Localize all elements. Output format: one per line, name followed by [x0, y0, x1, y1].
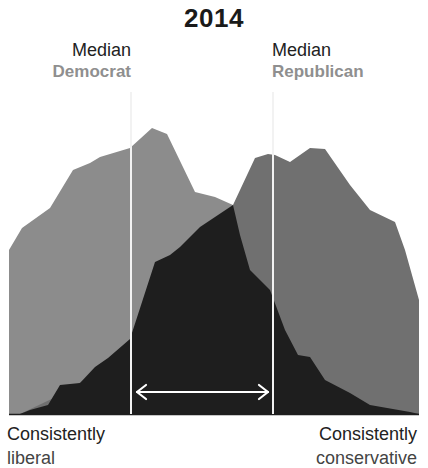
- x-axis-right-label: Consistently conservative: [316, 422, 417, 468]
- right-label-line2: conservative: [316, 446, 417, 468]
- left-label-line1: Consistently: [7, 424, 105, 444]
- left-label-line2: liberal: [7, 446, 105, 468]
- right-label-line1: Consistently: [319, 424, 417, 444]
- x-axis-left-label: Consistently liberal: [7, 422, 105, 468]
